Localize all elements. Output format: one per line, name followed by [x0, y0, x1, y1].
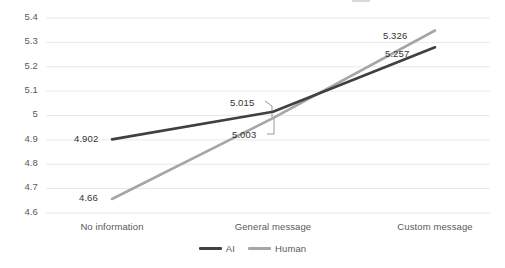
legend-item-human[interactable]: Human: [248, 243, 306, 254]
data-label-human-general-message: 5.003: [232, 129, 256, 140]
data-label-ai-no-information: 4.902: [74, 133, 98, 144]
data-label-ai-general-message: 5.015: [230, 97, 254, 108]
legend-swatch-human-icon: [248, 247, 271, 250]
data-label-human-custom-message: 5.326: [383, 30, 407, 41]
x-axis-tick-no-information: No information: [42, 221, 182, 232]
gridlines: [46, 18, 490, 213]
y-axis-tick-5-2: 5.2: [4, 60, 38, 71]
line-chart: 5.4 5.3 5.2 5.1 5 4.9 4.8 4.7 4.6 No inf…: [0, 0, 505, 268]
data-label-ai-custom-message: 5.257: [385, 48, 409, 59]
y-axis-tick-4-8: 4.8: [4, 157, 38, 168]
legend-label-human: Human: [275, 243, 306, 254]
y-axis-tick-5-3: 5.3: [4, 35, 38, 46]
legend-item-ai[interactable]: AI: [199, 243, 235, 254]
y-axis-tick-4-6: 4.6: [4, 206, 38, 217]
series-ai-line: [112, 47, 435, 139]
y-axis-tick-5-4: 5.4: [4, 11, 38, 22]
y-axis-tick-5-1: 5.1: [4, 84, 38, 95]
data-label-human-no-information: 4.66: [79, 192, 98, 203]
y-axis-tick-4-9: 4.9: [4, 133, 38, 144]
legend: AI Human: [0, 243, 505, 254]
y-axis-tick-5: 5: [4, 108, 38, 119]
legend-swatch-ai-icon: [199, 247, 222, 250]
x-axis-tick-general-message: General message: [203, 221, 343, 232]
y-axis-tick-4-7: 4.7: [4, 181, 38, 192]
x-axis-tick-custom-message: Custom message: [365, 221, 505, 232]
legend-label-ai: AI: [226, 243, 235, 254]
